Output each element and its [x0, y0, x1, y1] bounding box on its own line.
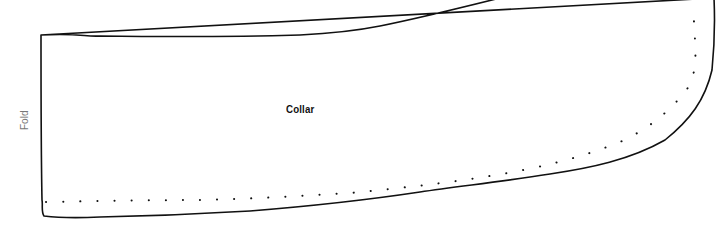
fold-label: Fold: [19, 111, 30, 130]
pattern-diagram: Collar Fold: [0, 0, 727, 239]
seam-line-dotted: [46, 12, 695, 202]
piece-label: Collar: [286, 103, 314, 115]
cut-line-outline: [41, 0, 714, 218]
collar-pattern-svg: [0, 0, 727, 239]
